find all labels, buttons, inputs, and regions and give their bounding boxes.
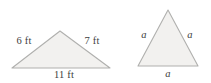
equilateral-triangle-left-side-label: a: [141, 30, 146, 41]
equilateral-triangle-base-side-label: a: [165, 69, 170, 80]
scalene-triangle-right-side-label: 7 ft: [84, 36, 99, 47]
equilateral-triangle-right-side-label: a: [187, 30, 192, 41]
triangles-canvas: [0, 0, 211, 83]
scalene-triangle-left-side-label: 6 ft: [16, 36, 31, 47]
two-triangles-geometry-figure: 6 ft 7 ft 11 ft a a a: [0, 0, 211, 83]
scalene-triangle-base-side-label: 11 ft: [54, 70, 74, 81]
